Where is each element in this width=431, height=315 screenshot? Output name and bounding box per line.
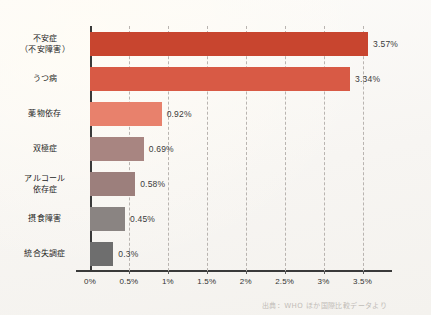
bar-row: 0.45% [90,207,382,231]
bar-row: 0.3% [90,242,382,266]
category-label-line: 統合失調症 [3,248,87,259]
bar-value-label: 0.58% [140,179,165,189]
bar-value-label: 3.34% [355,74,380,84]
category-label: 摂食障害 [3,213,87,224]
category-label-line: 依存症 [3,184,87,195]
x-axis-tick-mark [168,271,169,274]
category-label: 不安症（不安障害） [3,33,87,55]
category-label-line: 薬物依存 [3,108,87,119]
category-label-line: （不安障害） [3,44,87,55]
category-label: うつ病 [3,73,87,84]
category-label: アルコール依存症 [3,173,87,195]
x-axis-tick-label: 3.5% [353,277,372,286]
category-label-line: アルコール [3,173,87,184]
bar [90,242,113,266]
x-axis-tick-label: 1% [162,277,174,286]
bar-value-label: 0.3% [118,249,138,259]
bar-row: 0.92% [90,102,382,126]
bar-chart: 3.57%3.34%0.92%0.69%0.58%0.45%0.3% 不安症（不… [0,0,431,315]
bar [90,32,368,56]
bar-value-label: 0.69% [149,144,174,154]
bar-row: 3.57% [90,32,382,56]
bar-row: 0.58% [90,172,382,196]
bar [90,67,350,91]
bar-row: 3.34% [90,67,382,91]
x-axis-tick-label: 0% [84,277,96,286]
x-axis-tick-label: 2.5% [275,277,294,286]
x-axis-tick-mark [363,271,364,274]
x-axis-tick-label: 3% [318,277,330,286]
x-axis-tick-mark [324,271,325,274]
category-label-line: 摂食障害 [3,213,87,224]
category-label-line: 不安症 [3,33,87,44]
category-label: 統合失調症 [3,248,87,259]
bar-row: 0.69% [90,137,382,161]
bar [90,172,135,196]
x-axis-tick-label: 1.5% [197,277,216,286]
category-label-line: 双極症 [3,143,87,154]
x-axis-tick-mark [285,271,286,274]
source-note: 出典：WHO ほか国際比較データより [262,300,387,310]
x-axis-tick-mark [207,271,208,274]
bar-value-label: 3.57% [373,39,398,49]
x-axis-tick-label: 2% [240,277,252,286]
bar [90,102,162,126]
category-label-line: うつ病 [3,73,87,84]
category-label: 双極症 [3,143,87,154]
bar [90,207,125,231]
bar-value-label: 0.45% [130,214,155,224]
bar-value-label: 0.92% [167,109,192,119]
x-axis-tick-label: 0.5% [119,277,138,286]
bar [90,137,144,161]
x-axis-tick-mark [246,271,247,274]
x-axis-tick-mark [129,271,130,274]
category-label: 薬物依存 [3,108,87,119]
